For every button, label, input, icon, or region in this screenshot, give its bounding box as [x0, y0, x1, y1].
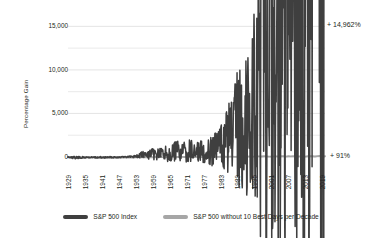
x-axis-tick-label: 2013: [303, 165, 309, 189]
x-axis-tick-label: 2001: [269, 165, 275, 189]
x-axis-tick-label: 1929: [66, 165, 72, 189]
x-axis-tick-label: 1959: [151, 165, 157, 189]
legend-label: S&P 500 Index: [93, 214, 137, 221]
legend-item[interactable]: S&P 500 Index: [63, 214, 137, 221]
x-axis-tick-label: 1971: [184, 165, 190, 189]
legend-label: S&P 500 without 10 Best Days per Decade: [193, 214, 319, 221]
x-axis-tick-label: 1953: [134, 165, 140, 189]
x-axis-tick-label: 1947: [117, 165, 123, 189]
x-axis-tick-labels: 1929193519411947195319591965197119771983…: [0, 0, 382, 238]
x-axis-tick-label: 2019: [320, 165, 326, 189]
x-axis-tick-label: 1995: [252, 165, 258, 189]
chart-container: Percentage Gain 05,00010,00015,000 19291…: [0, 0, 382, 238]
x-axis-tick-label: 1935: [83, 165, 89, 189]
annotation-missed-days-total: + 91%: [330, 152, 350, 159]
legend-color-swatch: [63, 215, 88, 220]
x-axis-tick-label: 2007: [286, 165, 292, 189]
x-axis-tick-label: 1989: [235, 165, 241, 189]
legend-color-swatch: [163, 215, 188, 220]
x-axis-tick-label: 1977: [201, 165, 207, 189]
x-axis-tick-label: 1941: [100, 165, 106, 189]
x-axis-tick-label: 1965: [167, 165, 173, 189]
x-axis-tick-label: 1983: [218, 165, 224, 189]
chart-legend: S&P 500 IndexS&P 500 without 10 Best Day…: [0, 208, 382, 226]
annotation-sp500-total: + 14,962%: [327, 21, 361, 28]
legend-item[interactable]: S&P 500 without 10 Best Days per Decade: [163, 214, 319, 221]
